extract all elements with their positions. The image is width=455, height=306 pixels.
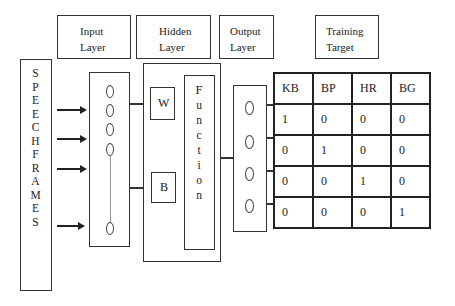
table-row: 0 0 0 1	[274, 197, 430, 228]
input-layer-header-line1: Input	[80, 23, 130, 39]
function-text: F u n c t i o n	[185, 83, 213, 203]
table-cell: 0	[274, 166, 313, 197]
input-node-ellipsis-line	[110, 156, 111, 222]
column-header-hr: HR	[352, 73, 391, 104]
input-arrow-1	[57, 109, 81, 111]
input-arrow-4	[57, 225, 79, 227]
weight-box: W	[150, 87, 175, 120]
hidden-layer-header-line2: Layer	[159, 39, 210, 55]
output-layer-header: Output Layer	[219, 15, 274, 59]
input-node-1	[106, 85, 114, 98]
output-node-2	[245, 135, 254, 149]
table-cell: 0	[274, 135, 313, 166]
input-node-4	[106, 143, 114, 156]
output-node-3	[245, 167, 254, 181]
input-node-3	[106, 123, 114, 136]
column-header-bp: BP	[313, 73, 352, 104]
activation-function-box: F u n c t i o n	[184, 75, 215, 250]
input-layer-header-line2: Layer	[80, 39, 130, 55]
table-row: 1 0 0 0	[274, 104, 430, 135]
input-layer-header: Input Layer	[57, 15, 131, 59]
output-node-4	[245, 199, 254, 213]
table-row: 0 1 0 0	[274, 135, 430, 166]
output-layer-header-line2: Layer	[230, 39, 273, 55]
speech-frames-box: S P E E C H F R A M E S	[20, 59, 52, 291]
table-cell: 0	[391, 135, 430, 166]
table-cell: 1	[352, 166, 391, 197]
table-cell: 1	[391, 197, 430, 228]
weight-label: W	[158, 95, 169, 111]
training-target-header-line1: Training	[326, 23, 378, 39]
table-cell: 0	[391, 104, 430, 135]
input-arrow-3	[57, 168, 81, 170]
training-target-header-line2: Target	[326, 39, 378, 55]
column-header-bg: BG	[391, 73, 430, 104]
output-node-1	[245, 101, 254, 115]
table-cell: 0	[352, 197, 391, 228]
table-header-row: KB BP HR BG	[274, 73, 430, 104]
table-cell: 0	[313, 197, 352, 228]
training-target-header: Training Target	[315, 15, 379, 59]
hidden-layer-header: Hidden Layer	[136, 15, 211, 59]
table-cell: 0	[313, 104, 352, 135]
bias-label: B	[160, 179, 168, 195]
table-cell: 0	[274, 197, 313, 228]
training-target-table: KB BP HR BG 1 0 0 0 0 1 0 0 0 0 1 0 0 0 …	[273, 72, 431, 229]
column-header-kb: KB	[274, 73, 313, 104]
speech-frames-text: S P E E C H F R A M E S	[21, 67, 50, 229]
table-cell: 0	[352, 135, 391, 166]
input-node-n	[106, 222, 114, 235]
table-cell: 0	[352, 104, 391, 135]
table-cell: 0	[391, 166, 430, 197]
table-cell: 1	[274, 104, 313, 135]
input-node-2	[106, 104, 114, 117]
output-layer-header-line1: Output	[230, 23, 273, 39]
bias-box: B	[151, 172, 176, 203]
hidden-layer-header-line1: Hidden	[159, 23, 210, 39]
table-cell: 1	[313, 135, 352, 166]
input-arrow-2	[57, 138, 81, 140]
table-cell: 0	[313, 166, 352, 197]
table-row: 0 0 1 0	[274, 166, 430, 197]
